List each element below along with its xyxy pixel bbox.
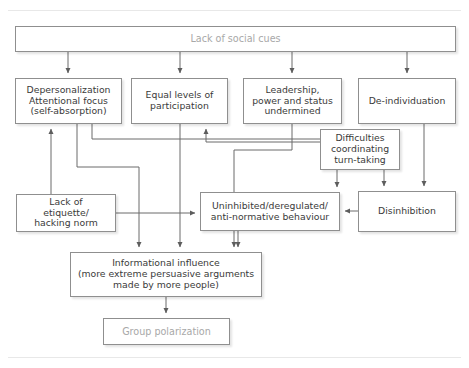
node-informational-influence[interactable]: Informational influence (more extreme pe… [70, 252, 262, 297]
node-lack-of-etiquette-hacking-norm[interactable]: Lack of etiquette/ hacking norm [16, 194, 116, 232]
node-group-polarization[interactable]: Group polarization [103, 318, 230, 345]
top-divider [8, 10, 461, 11]
edge-deperson-uninhib [92, 124, 337, 187]
node-difficulties-coordinating-turn-taking[interactable]: Difficulties coordinating turn-taking [320, 129, 400, 170]
node-de-individuation[interactable]: De-individuation [358, 78, 456, 124]
bottom-divider [8, 357, 461, 358]
node-lack-of-social-cues[interactable]: Lack of social cues [15, 26, 456, 52]
node-depersonalization[interactable]: Depersonalization Attentional focus (sel… [15, 78, 122, 124]
node-uninhibited-deregulated-anti-normative-behaviour[interactable]: Uninhibited/deregulated/ anti-normative … [200, 192, 340, 231]
edge-difficult-equal [206, 129, 320, 142]
node-equal-levels-of-participation[interactable]: Equal levels of participation [131, 78, 228, 124]
diagram-canvas: Lack of social cues Depersonalization At… [0, 0, 469, 368]
node-leadership-power-status-undermined[interactable]: Leadership, power and status undermined [243, 78, 342, 124]
node-disinhibition[interactable]: Disinhibition [358, 191, 456, 232]
connector-layer [0, 0, 469, 368]
